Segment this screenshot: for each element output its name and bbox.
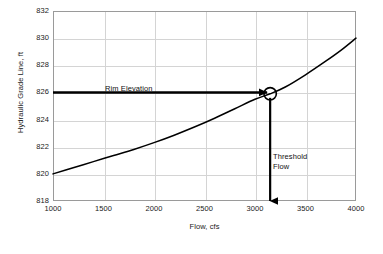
x-tick-label: 2000 — [134, 204, 174, 213]
gridline-horizontal — [54, 66, 355, 67]
x-tick-label: 3500 — [286, 204, 326, 213]
gridline-vertical — [155, 12, 156, 200]
y-tick-label: 820 — [19, 170, 49, 178]
x-tick-label: 4000 — [336, 204, 376, 213]
x-axis-title: Flow, cfs — [53, 222, 356, 231]
threshold-flow-label: Threshold Flow — [273, 152, 307, 172]
gridline-vertical — [256, 12, 257, 200]
gridline-vertical — [105, 12, 106, 200]
gridline-horizontal — [54, 121, 355, 122]
gridline-horizontal — [54, 148, 355, 149]
x-tick-label: 1500 — [84, 204, 124, 213]
gridline-horizontal — [54, 39, 355, 40]
x-tick-label: 3000 — [235, 204, 275, 213]
plot-area — [53, 11, 356, 201]
gridline-horizontal — [54, 93, 355, 94]
rim-elevation-label: Rim Elevation — [105, 84, 153, 94]
x-tick-label: 2500 — [185, 204, 225, 213]
chart-figure: 818820822824826828830832 100015002000250… — [0, 0, 383, 254]
gridline-horizontal — [54, 175, 355, 176]
y-axis-title: Hydraulic Grade Line, ft — [16, 18, 25, 168]
gridline-vertical — [206, 12, 207, 200]
y-tick-label: 832 — [19, 7, 49, 15]
x-tick-label: 1000 — [33, 204, 73, 213]
